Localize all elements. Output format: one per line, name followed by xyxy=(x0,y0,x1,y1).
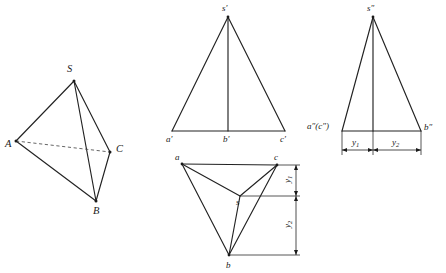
technical-drawing-svg: S A C B s′ a′ b′ c′ s″ a″( xyxy=(0,0,446,273)
side-vertex-dot-s xyxy=(372,16,375,19)
top-edge-a-b xyxy=(182,164,229,255)
side-arrow-y1-left xyxy=(342,148,347,152)
label-s-prime: s′ xyxy=(222,3,229,13)
top-label-b: b xyxy=(226,260,231,270)
edge-a-c-hidden xyxy=(16,141,110,152)
top-arrow-y2-bottom xyxy=(294,250,298,255)
label-c-prime: c′ xyxy=(280,134,287,144)
top-arrow-y1-bottom xyxy=(294,191,298,196)
edge-b-c xyxy=(96,152,110,201)
figure-canvas: S A C B s′ a′ b′ c′ s″ a″( xyxy=(0,0,446,273)
front-view: s′ a′ b′ c′ xyxy=(166,3,287,144)
vertex-dot-c xyxy=(109,151,112,154)
top-view: a c s b y1 y2 xyxy=(175,152,300,270)
side-dim-label-y2: y2 xyxy=(391,137,400,148)
edge-s-a xyxy=(16,81,74,141)
top-label-s: s xyxy=(236,197,240,207)
front-edge-s-c xyxy=(228,17,285,131)
top-vertex-dot-a xyxy=(181,163,184,166)
side-view: s″ a″(c″) b″ y1 y2 xyxy=(307,3,433,155)
label-s-double-prime: s″ xyxy=(367,3,375,13)
top-label-a: a xyxy=(175,152,180,162)
label-b-prime: b′ xyxy=(223,134,231,144)
top-label-c: c xyxy=(274,152,278,162)
label-c: C xyxy=(116,143,124,154)
label-b: B xyxy=(93,205,100,216)
edge-s-c xyxy=(74,81,110,152)
top-edge-c-s xyxy=(240,165,277,196)
side-arrow-y2-right xyxy=(416,148,421,152)
side-dim-label-y1: y1 xyxy=(351,137,359,148)
side-arrow-y1-right xyxy=(368,148,373,152)
top-arrow-y1-top xyxy=(294,165,298,170)
label-a: A xyxy=(4,138,12,149)
label-s: S xyxy=(67,63,73,74)
pictorial-view: S A C B xyxy=(4,63,124,216)
edge-s-b xyxy=(74,81,96,201)
side-edge-s-b xyxy=(373,17,421,131)
edge-a-b xyxy=(16,141,96,201)
vertex-dot-a xyxy=(15,140,18,143)
vertex-dot-b xyxy=(95,200,98,203)
front-vertex-dot-s xyxy=(227,16,230,19)
label-b-double-prime: b″ xyxy=(424,122,433,132)
top-edge-c-b xyxy=(229,165,277,255)
side-arrow-y2-left xyxy=(373,148,378,152)
side-edge-s-a xyxy=(342,17,373,131)
label-a-prime: a′ xyxy=(166,134,174,144)
front-edge-s-a xyxy=(172,17,228,131)
top-dim-label-y2: y2 xyxy=(282,220,293,229)
label-a-c-double-prime: a″(c″) xyxy=(307,121,329,131)
top-arrow-y2-top xyxy=(294,196,298,201)
top-edge-a-c xyxy=(182,164,277,165)
vertex-dot-s xyxy=(73,80,76,83)
top-dim-label-y1: y1 xyxy=(282,176,293,184)
